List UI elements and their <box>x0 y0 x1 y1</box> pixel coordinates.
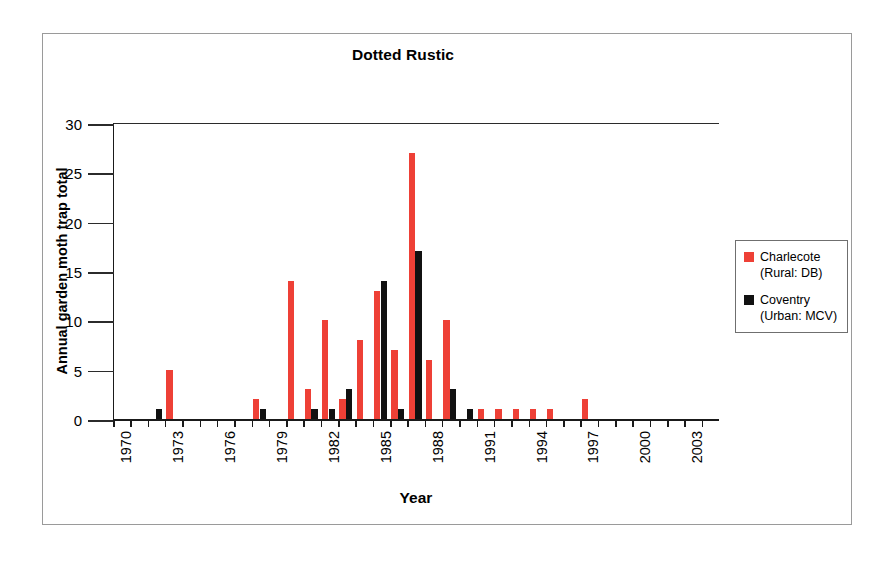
x-axis-tick-label: 1997 <box>585 431 601 463</box>
bar-charlecote-1986 <box>391 350 397 419</box>
x-axis-tick <box>546 419 548 427</box>
x-axis-tick <box>321 419 323 427</box>
y-axis-tick <box>88 321 114 323</box>
x-axis-tick <box>684 419 686 427</box>
bar-charlecote-1997 <box>582 399 588 419</box>
y-axis-tick-label: 25 <box>65 166 82 181</box>
bar-charlecote-1984 <box>357 340 363 419</box>
y-axis-tick <box>88 173 114 175</box>
x-axis-tick <box>286 419 288 427</box>
y-axis-tick <box>88 420 114 422</box>
x-axis-tick <box>598 419 600 427</box>
x-axis-tick <box>442 419 444 427</box>
bar-charlecote-1980 <box>288 281 294 419</box>
x-axis-tick <box>563 419 565 427</box>
x-axis-tick <box>217 419 219 427</box>
x-axis-tick <box>390 419 392 427</box>
bar-charlecote-1991 <box>478 409 484 419</box>
bar-coventry-1986 <box>398 409 404 419</box>
x-axis-tick <box>165 419 167 427</box>
x-axis-tick <box>459 419 461 427</box>
bar-coventry-1982 <box>329 409 335 419</box>
x-axis-title: Year <box>113 489 719 507</box>
y-axis-tick-label: 0 <box>74 413 82 428</box>
x-axis-tick <box>615 419 617 427</box>
x-axis-tick <box>252 419 254 427</box>
x-axis-tick <box>667 419 669 427</box>
x-axis-tick-label: 2003 <box>689 431 705 463</box>
x-axis-tick <box>182 419 184 427</box>
bar-charlecote-1994 <box>530 409 536 419</box>
plot-area: 051015202530 <box>113 123 719 419</box>
bar-layer <box>113 123 719 419</box>
bar-coventry-1972 <box>156 409 162 419</box>
x-axis-tick <box>529 419 531 427</box>
bar-charlecote-1993 <box>513 409 519 419</box>
bar-charlecote-1982 <box>322 320 328 419</box>
x-axis-tick-label: 2000 <box>637 431 653 463</box>
x-axis-tick <box>407 419 409 427</box>
legend-label-charlecote-line2: (Rural: DB) <box>760 266 823 280</box>
x-axis-tick <box>425 419 427 427</box>
bar-charlecote-1981 <box>305 389 311 419</box>
legend-item-charlecote: Charlecote (Rural: DB) <box>744 249 837 281</box>
x-axis-tick-label: 1976 <box>222 431 238 463</box>
legend-item-coventry: Coventry (Urban: MCV) <box>744 292 837 324</box>
bar-coventry-1990 <box>467 409 473 419</box>
x-axis-tick <box>338 419 340 427</box>
y-axis-tick-label: 5 <box>74 363 82 378</box>
y-axis-tick <box>88 272 114 274</box>
x-axis-tick <box>632 419 634 427</box>
bar-charlecote-1995 <box>547 409 553 419</box>
x-axis-tick <box>303 419 305 427</box>
y-axis-tick-label: 30 <box>65 117 82 132</box>
chart-frame: Dotted Rustic Annual garden moth trap to… <box>42 33 852 525</box>
x-axis-tick <box>269 419 271 427</box>
legend-label-coventry-line1: Coventry <box>760 293 810 307</box>
bar-charlecote-1973 <box>166 370 172 419</box>
x-axis-tick <box>234 419 236 427</box>
x-axis-tick-label: 1991 <box>482 431 498 463</box>
legend-label-charlecote: Charlecote (Rural: DB) <box>760 249 823 281</box>
x-axis-tick <box>511 419 513 427</box>
x-axis-tick <box>200 419 202 427</box>
bar-coventry-1985 <box>381 281 387 419</box>
x-axis-tick-label: 1970 <box>118 431 134 463</box>
bar-charlecote-1987 <box>409 153 415 419</box>
x-axis-tick <box>130 419 132 427</box>
legend-label-coventry-line2: (Urban: MCV) <box>760 309 837 323</box>
x-axis-tick <box>355 419 357 427</box>
legend-swatch-icon-coventry <box>744 295 754 305</box>
x-axis-tick <box>702 419 704 427</box>
y-axis-tick <box>88 371 114 373</box>
bar-coventry-1978 <box>260 409 266 419</box>
bar-charlecote-1985 <box>374 291 380 419</box>
chart-title: Dotted Rustic <box>43 46 763 64</box>
x-axis-tick <box>580 419 582 427</box>
bar-coventry-1989 <box>450 389 456 419</box>
legend: Charlecote (Rural: DB) Coventry (Urban: … <box>735 240 848 333</box>
x-axis-tick <box>477 419 479 427</box>
x-axis-tick-label: 1988 <box>430 431 446 463</box>
x-axis-tick-label: 1973 <box>170 431 186 463</box>
x-axis-tick <box>113 419 115 427</box>
x-axis-tick <box>650 419 652 427</box>
bar-charlecote-1988 <box>426 360 432 419</box>
legend-swatch-icon-charlecote <box>744 252 754 262</box>
bar-charlecote-1983 <box>339 399 345 419</box>
x-axis-tick <box>494 419 496 427</box>
x-axis-tick <box>373 419 375 427</box>
legend-label-charlecote-line1: Charlecote <box>760 250 820 264</box>
y-axis-tick <box>88 223 114 225</box>
x-axis-tick-label: 1979 <box>274 431 290 463</box>
x-axis-tick <box>148 419 150 427</box>
bar-coventry-1987 <box>415 251 421 419</box>
y-axis-tick-label: 20 <box>65 215 82 230</box>
y-axis-tick-label: 15 <box>65 265 82 280</box>
bar-charlecote-1992 <box>495 409 501 419</box>
x-axis-tick-label: 1994 <box>534 431 550 463</box>
x-axis-tick-label: 1985 <box>378 431 394 463</box>
x-axis: 1970197319761979198219851988199119941997… <box>113 419 719 421</box>
legend-label-coventry: Coventry (Urban: MCV) <box>760 292 837 324</box>
x-axis-tick-label: 1982 <box>326 431 342 463</box>
